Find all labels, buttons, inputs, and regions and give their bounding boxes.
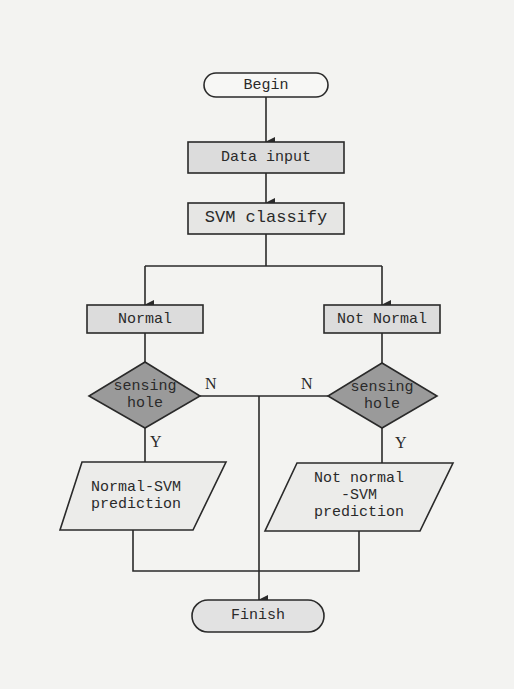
not-normal-box: [324, 305, 440, 333]
data-input-box: [188, 142, 344, 173]
left-yes-label: Y: [150, 433, 162, 451]
right-yes-label: Y: [395, 434, 407, 452]
finish-terminal: [192, 600, 324, 632]
right-no-label: N: [301, 375, 313, 393]
edge-not-normal-svm-to-finish: [259, 531, 359, 571]
edge-normal-svm-to-finish: [133, 530, 259, 571]
sensing-hole-right-decision: [328, 363, 437, 428]
normal-box: [87, 305, 203, 333]
not-normal-svm-prediction-io: [265, 463, 453, 531]
normal-svm-prediction-io: [60, 462, 226, 530]
left-no-label: N: [205, 375, 217, 393]
flowchart: [0, 0, 514, 689]
sensing-hole-left-decision: [89, 362, 200, 428]
begin-terminal: [204, 73, 328, 97]
svm-classify-box: [188, 203, 344, 234]
